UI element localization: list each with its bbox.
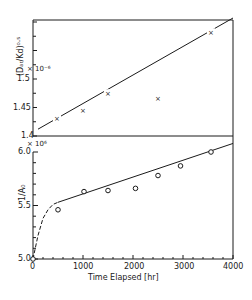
x-marker: × [54,115,60,123]
top-ytick-1-4: 1.4 [21,132,34,140]
top-ytick-1-5: 1.5 [17,75,30,83]
x-marker: × [208,29,214,37]
initial-dashed-curve [33,202,58,259]
circle-marker [82,189,87,194]
circle-marker [209,150,214,155]
circle-marker [133,186,138,191]
circle-marker [106,188,111,193]
top-fit-line [38,18,233,129]
circle-marker [31,257,36,262]
x-marker: × [155,95,161,103]
circle-marker [56,207,61,212]
bottom-y-axis-label: 1/A₀ [18,185,27,201]
x-marker: × [105,90,111,98]
bottom-ytick-6-0: 6.0 [18,148,31,156]
x-axis-label: Time Elapsed [hr] [88,274,159,282]
xtick-1000: 1000 [73,263,93,271]
xtick-4000: 4000 [223,263,243,271]
top-ytick-1-45: 1.45 [13,104,31,112]
top-y-axis-label: (Dₐᵣ/Kd)⁰·⁵ [16,36,25,76]
circle-marker [178,164,183,169]
xtick-2000: 2000 [124,263,144,271]
xtick-0: 0 [30,263,35,271]
bottom-ytick-5-0: 5.0 [18,255,31,263]
figure: ××××× (Dₐᵣ/Kd)⁰·⁵ × 10⁻⁶ 1.5 1.45 1.4 1/… [0,0,252,300]
x-marker: × [80,107,86,115]
xtick-3000: 3000 [174,263,194,271]
top-y-multiplier: × 10⁻⁶ [27,66,51,73]
plot-canvas: ××××× [0,0,252,300]
bottom-ytick-5-5: 5.5 [18,202,31,210]
circle-marker [156,173,161,178]
